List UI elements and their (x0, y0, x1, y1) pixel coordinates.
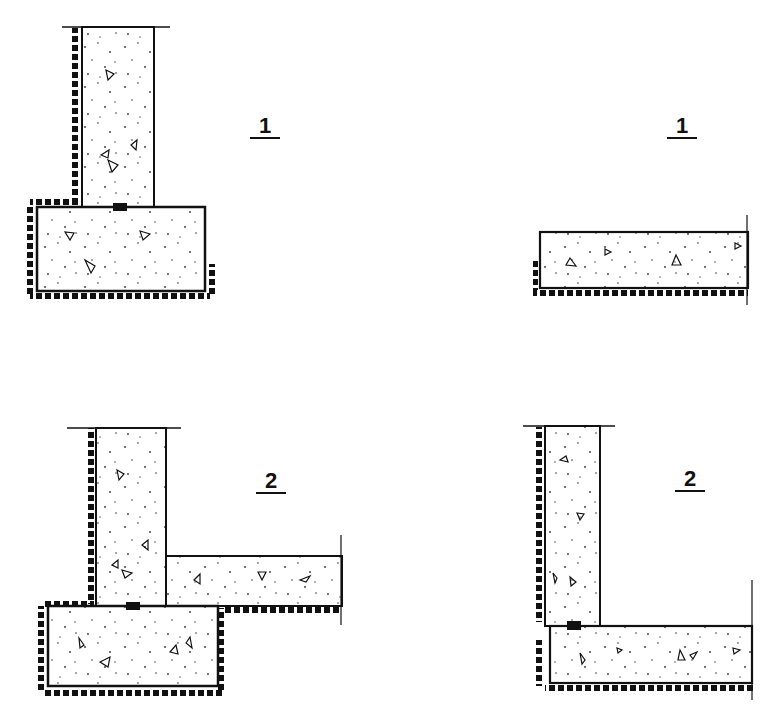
panel-bottom-right (523, 426, 753, 700)
drawing-canvas (0, 0, 783, 717)
panel-bottom-left (38, 428, 342, 696)
panel-top-right (533, 215, 748, 305)
panel-top-left (27, 27, 215, 299)
panel-label-bottom-left: 2 (256, 470, 286, 494)
panel-label-top-right: 1 (667, 115, 697, 139)
panel-label-top-left: 1 (250, 115, 280, 139)
panel-label-bottom-right: 2 (675, 468, 705, 492)
